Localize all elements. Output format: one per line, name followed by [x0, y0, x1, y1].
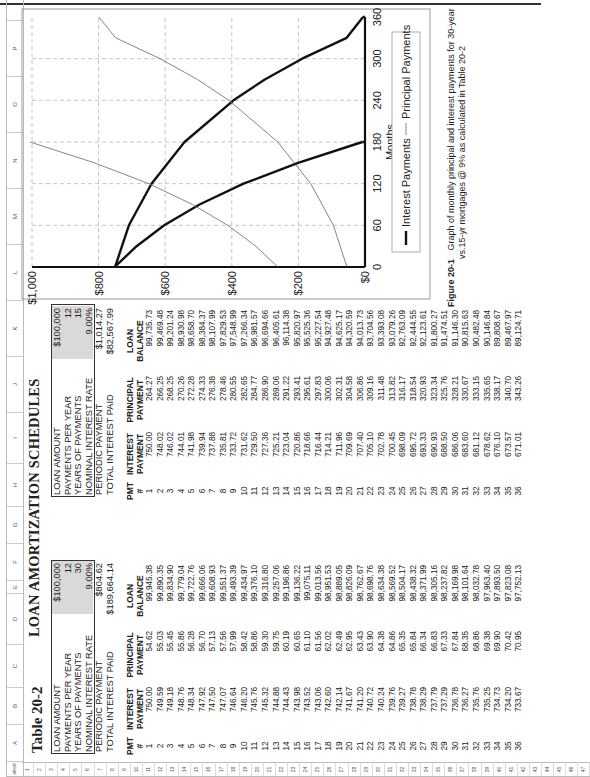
column-letter-j[interactable]: J: [7, 356, 23, 412]
pmt-number-cell: 1: [145, 482, 156, 500]
summary-value[interactable]: 12: [63, 563, 74, 615]
interest-payment-cell: 700.45: [388, 432, 399, 476]
pmt-number-cell: 8: [219, 482, 230, 500]
column-letter-h[interactable]: H: [7, 463, 23, 506]
row-number[interactable]: 33: [409, 762, 421, 776]
loan-balance-cell: 99,257.06: [272, 565, 283, 627]
row-number[interactable]: 15: [191, 762, 203, 776]
summary-15yr: LOAN AMOUNT$100,000PAYMENTS PER YEAR12YE…: [52, 309, 116, 495]
interest-payment-cell: 727.36: [261, 432, 272, 476]
row-number[interactable]: 40: [494, 762, 506, 776]
row-number[interactable]: 23: [288, 762, 300, 776]
interest-payment-cell: 731.62: [240, 432, 251, 476]
row-number[interactable]: 35: [433, 762, 445, 776]
row-number[interactable]: 47: [578, 762, 590, 776]
row-number[interactable]: 24: [300, 762, 312, 776]
row-number[interactable]: 25: [312, 762, 324, 776]
row-number[interactable]: 17: [216, 762, 228, 776]
row-number[interactable]: 7: [95, 762, 107, 776]
row-number[interactable]: 22: [276, 762, 288, 776]
row-number[interactable]: 19: [240, 762, 252, 776]
row-number[interactable]: 32: [397, 762, 409, 776]
column-letter-a[interactable]: A: [7, 724, 23, 761]
row-number[interactable]: 2: [34, 762, 46, 776]
payments-line-chart: $1,000$800$600$400$200$00601201802403003…: [20, 7, 440, 307]
row-number[interactable]: 28: [349, 762, 361, 776]
row-number[interactable]: 36: [445, 762, 457, 776]
column-letter-g[interactable]: G: [7, 506, 23, 543]
pmt-number-cell: 13: [272, 737, 283, 755]
row-number[interactable]: 34: [421, 762, 433, 776]
row-number[interactable]: 45: [554, 762, 566, 776]
principal-payment-cell: 57.99: [229, 631, 240, 679]
loan-balance-cell: 99,608.93: [208, 565, 219, 627]
row-number[interactable]: 44: [542, 762, 554, 776]
row-number[interactable]: 42: [518, 762, 530, 776]
loan-balance-cell: 99,316.80: [261, 565, 272, 627]
row-number[interactable]: 29: [361, 762, 373, 776]
row-number[interactable]: 9: [119, 762, 131, 776]
row-number[interactable]: 6: [82, 762, 94, 776]
column-letter-i[interactable]: I: [7, 412, 23, 463]
column-letter-c[interactable]: C: [7, 644, 23, 687]
column-letter-d[interactable]: D: [7, 593, 23, 644]
interest-payment-cell: 734.20: [504, 687, 515, 731]
column-letter-e[interactable]: E: [7, 580, 23, 593]
pmt-number-cell: 10: [240, 737, 251, 755]
summary-value[interactable]: 12: [63, 308, 74, 360]
interest-payment-cell: 723.04: [282, 432, 293, 476]
row-number[interactable]: 26: [324, 762, 336, 776]
loan-balance-cell: 97,963.40: [483, 565, 494, 627]
row-number[interactable]: 30: [373, 762, 385, 776]
interest-payment-cell: 698.09: [398, 432, 409, 476]
row-number[interactable]: 3: [46, 762, 58, 776]
row-number[interactable]: 10: [131, 762, 143, 776]
row-number[interactable]: 16: [203, 762, 215, 776]
principal-payment-cell: 293.41: [293, 376, 304, 424]
principal-payment-header-line2: PAYMENT: [135, 631, 145, 679]
row-number[interactable]: 41: [506, 762, 518, 776]
row-number[interactable]: 4: [58, 762, 70, 776]
row-number[interactable]: 37: [457, 762, 469, 776]
row-number[interactable]: 31: [385, 762, 397, 776]
row-number[interactable]: 14: [179, 762, 191, 776]
loan-balance-cell: 98,107.99: [208, 310, 219, 372]
row-number[interactable]: 1: [22, 762, 34, 776]
principal-payment-cell: 280.55: [229, 376, 240, 424]
row-number[interactable]: 43: [530, 762, 542, 776]
interest-payment-cell: 718.66: [303, 432, 314, 476]
loan-balance-cell: 91,474.51: [440, 310, 451, 372]
column-letter-b[interactable]: B: [7, 687, 23, 724]
summary-value[interactable]: $100,000: [52, 308, 63, 360]
row-number[interactable]: 38: [469, 762, 481, 776]
row-number[interactable]: 27: [336, 762, 348, 776]
summary-value[interactable]: 9.00%: [84, 563, 95, 615]
row-number[interactable]: 11: [143, 762, 155, 776]
principal-payment-cell: 291.22: [282, 376, 293, 424]
pmt-number-cell: 29: [440, 737, 451, 755]
row-number[interactable]: 18: [228, 762, 240, 776]
row-number[interactable]: 20: [252, 762, 264, 776]
row-number[interactable]: 8: [107, 762, 119, 776]
interest-payment-cell: 747.50: [208, 687, 219, 731]
pmt-number-cell: 9: [229, 482, 240, 500]
interest-payment-cell: 750.00: [145, 687, 156, 731]
row-number[interactable]: 5: [70, 762, 82, 776]
row-number[interactable]: 39: [482, 762, 494, 776]
pmt-number-cell: 33: [483, 482, 494, 500]
loan-balance-column: LOANBALANCE99,945.3899,890.3599,834.9099…: [125, 565, 525, 627]
row-number[interactable]: 21: [264, 762, 276, 776]
summary-value[interactable]: $100,000: [52, 563, 63, 615]
loan-balance-cell: 98,569.52: [388, 565, 399, 627]
row-number[interactable]: 12: [155, 762, 167, 776]
column-letter-f[interactable]: F: [7, 543, 23, 580]
summary-value[interactable]: 15: [73, 308, 84, 360]
row-number[interactable]: 46: [566, 762, 578, 776]
row-number[interactable]: 13: [167, 762, 179, 776]
y-tick-label: $0: [359, 271, 371, 283]
pmt-number-column: PMT#123456789101112131415161718192021222…: [125, 482, 525, 500]
column-letter-k[interactable]: K: [7, 300, 23, 356]
summary-value[interactable]: 9.00%: [84, 308, 95, 360]
summary-value[interactable]: 30: [73, 563, 84, 615]
